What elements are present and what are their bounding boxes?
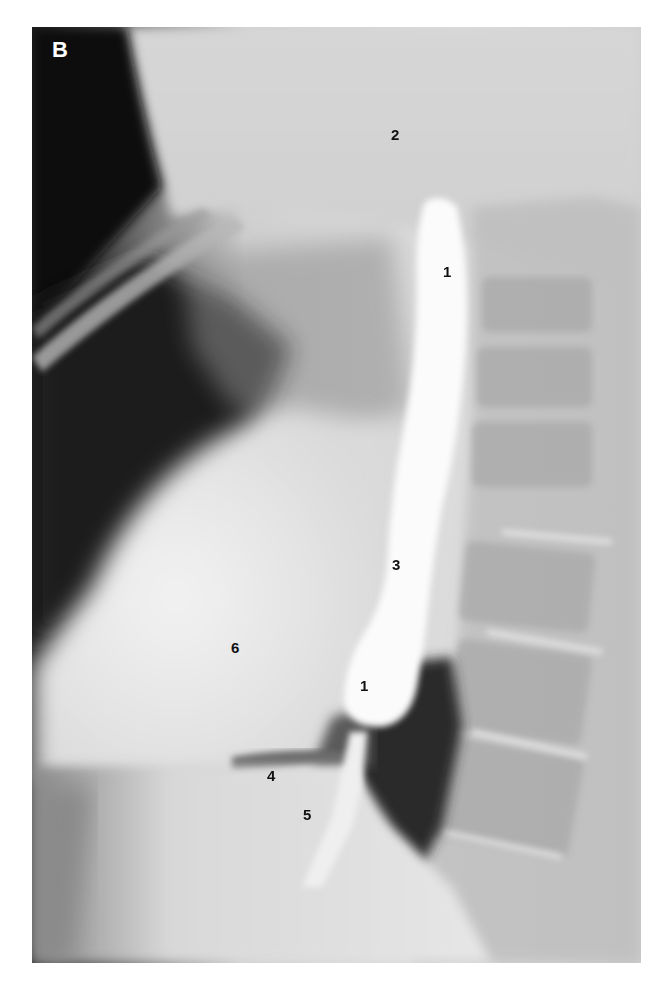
label-1-upper: 1 <box>443 264 451 279</box>
label-3: 3 <box>392 557 400 572</box>
radiograph-drawing <box>32 27 641 963</box>
label-4: 4 <box>267 768 275 783</box>
label-5: 5 <box>303 807 311 822</box>
label-2-upper: 2 <box>391 127 399 142</box>
label-6: 6 <box>231 640 239 655</box>
panel-label: B <box>52 39 68 61</box>
label-1-lower: 1 <box>360 678 368 693</box>
radiograph-image: B <box>32 27 641 963</box>
